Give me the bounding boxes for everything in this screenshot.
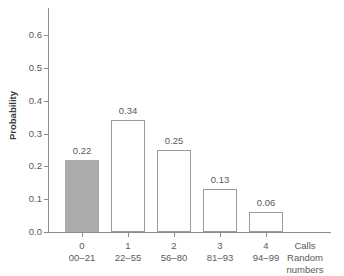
bar (203, 189, 237, 232)
y-axis-tick-label: 0.0 (16, 227, 42, 237)
y-axis-tick-label-text: 0.6 (20, 30, 42, 40)
x-axis-tick (128, 233, 129, 237)
x-axis-category-value: 0 (79, 240, 84, 251)
bar-value-label: 0.06 (246, 198, 286, 208)
y-axis-tick-label: 0.1 (16, 194, 42, 204)
x-axis-caption-line1: Calls (275, 240, 335, 252)
bar (249, 212, 283, 232)
y-axis-tick-label: 0.4 (16, 96, 42, 106)
x-axis-tick (266, 233, 267, 237)
x-axis-category-value: 1 (125, 240, 130, 251)
y-axis-tick (44, 232, 49, 233)
bar (111, 120, 145, 232)
x-axis-caption-line2: Random (275, 252, 335, 264)
y-axis-tick (44, 35, 49, 36)
y-axis-tick-label-text: 0.0 (20, 227, 42, 237)
y-axis-tick-label-text: 0.5 (20, 63, 42, 73)
bar-value-label: 0.13 (200, 175, 240, 185)
y-axis-tick (44, 199, 49, 200)
bar-value-label: 0.22 (62, 146, 102, 156)
y-axis-tick (44, 101, 49, 102)
x-axis-tick (82, 233, 83, 237)
x-axis-category-value: 4 (263, 240, 268, 251)
y-axis-tick (44, 166, 49, 167)
y-axis-tick-label: 0.3 (16, 129, 42, 139)
bar-value-label: 0.34 (108, 106, 148, 116)
bar-chart: Probability 0.00.10.20.30.40.50.6 0.220.… (0, 0, 344, 276)
x-axis-caption-line3: numbers (275, 264, 335, 276)
y-axis-tick-label: 0.6 (16, 30, 42, 40)
y-axis-tick-label: 0.2 (16, 161, 42, 171)
x-axis-category-value: 2 (171, 240, 176, 251)
y-axis-title: Probability (7, 76, 18, 156)
bar-value-label: 0.25 (154, 136, 194, 146)
y-axis-tick-label-text: 0.1 (20, 194, 42, 204)
y-axis-tick (44, 68, 49, 69)
x-axis-tick (220, 233, 221, 237)
x-axis-caption: Calls Random numbers (275, 240, 335, 276)
y-axis-tick (44, 134, 49, 135)
y-axis-tick-label-text: 0.2 (20, 161, 42, 171)
y-axis-tick-label-text: 0.3 (20, 129, 42, 139)
x-axis-category-value: 3 (217, 240, 222, 251)
y-axis-tick-label: 0.5 (16, 63, 42, 73)
bar (65, 160, 99, 232)
bar (157, 150, 191, 232)
x-axis-tick (174, 233, 175, 237)
x-axis-line (48, 232, 331, 233)
y-axis-tick-label-text: 0.4 (20, 96, 42, 106)
